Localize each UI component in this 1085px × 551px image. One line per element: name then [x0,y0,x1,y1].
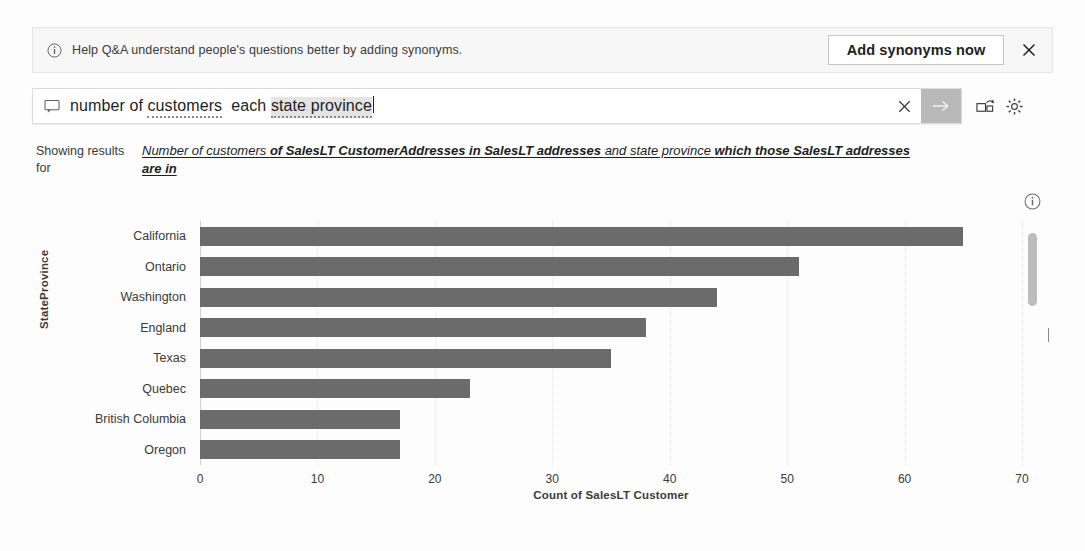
bar-series [200,221,1022,465]
y-axis-tick-label: California [54,221,194,252]
y-axis-category-labels: CaliforniaOntarioWashingtonEnglandTexasQ… [54,221,194,465]
question-input-container[interactable]: number of customers each state province [32,88,962,124]
category-label-text: Washington [120,290,186,304]
y-axis-tick-label: Quebec [54,374,194,405]
notification-message: Help Q&A understand people's questions b… [72,43,462,57]
restatement-part-2: and state province [605,143,715,158]
info-circle-icon [47,43,62,58]
x-axis-tick-label: 70 [1015,472,1028,486]
x-axis-tick-label: 10 [311,472,324,486]
category-label-text: California [133,229,186,243]
bar-row[interactable] [200,374,1022,405]
x-axis-tick-label: 40 [663,472,676,486]
x-axis-ticks: 010203040506070 [200,465,1022,489]
query-token-3: state province [271,97,372,118]
result-visual-container: StateProvince CaliforniaOntarioWashingto… [32,185,1053,531]
category-label-text: Texas [153,351,186,365]
submit-query-button[interactable] [921,89,961,123]
query-restatement[interactable]: Number of customers of SalesLT CustomerA… [142,142,932,178]
question-bar-tools [976,88,1024,124]
x-axis-tick-label: 30 [546,472,559,486]
bar-row[interactable] [200,252,1022,283]
query-token-1: customers [147,97,222,118]
bar-row[interactable] [200,282,1022,313]
showing-results-for: Showing results for Number of customers … [36,142,1036,178]
category-label-text: Quebec [142,382,186,396]
chat-bubble-icon [44,99,61,114]
clear-query-icon[interactable] [896,98,913,115]
x-axis-tick-label: 50 [780,472,793,486]
category-label-text: Ontario [145,260,186,274]
y-axis-tick-label: England [54,313,194,344]
bar[interactable] [200,349,611,368]
y-axis-tick-label: Oregon [54,435,194,466]
restatement-part-1: of SalesLT CustomerAddresses in SalesLT … [270,143,605,158]
bar[interactable] [200,410,400,429]
query-token-0: number of [70,97,147,115]
bar-row[interactable] [200,221,1022,252]
bar-row[interactable] [200,313,1022,344]
bar[interactable] [200,440,400,459]
bar[interactable] [200,379,470,398]
y-axis-tick-label: British Columbia [54,404,194,435]
bar[interactable] [200,257,799,276]
y-axis-title: StateProvince [38,250,50,329]
bar-row[interactable] [200,435,1022,466]
x-axis-tick-label: 0 [197,472,204,486]
y-axis-tick-label: Ontario [54,252,194,283]
x-axis-title: Count of SalesLT Customer [200,489,1022,501]
text-caret [373,96,374,113]
question-bar: number of customers each state province [32,88,1053,124]
gridline [1022,221,1024,465]
category-label-text: British Columbia [95,412,186,426]
bar[interactable] [200,227,963,246]
bar[interactable] [200,288,717,307]
y-axis-tick-label: Washington [54,282,194,313]
add-synonyms-button[interactable]: Add synonyms now [828,35,1004,65]
info-circle-icon[interactable] [1024,193,1041,210]
bar-row[interactable] [200,404,1022,435]
synonym-notification-bar: Help Q&A understand people's questions b… [32,27,1053,73]
close-icon[interactable] [1020,41,1038,59]
x-axis-tick-label: 60 [898,472,911,486]
question-input-text[interactable]: number of customers each state province [70,94,374,118]
showing-results-label: Showing results for [36,142,142,178]
convert-to-visual-icon[interactable] [976,97,995,116]
qna-report-page: Help Q&A understand people's questions b… [0,0,1085,551]
bar[interactable] [200,318,646,337]
plot-area [200,221,1022,465]
gear-icon[interactable] [1005,97,1024,116]
restatement-part-0: Number of customers [142,143,270,158]
category-label-text: England [140,321,186,335]
x-axis-tick-label: 20 [428,472,441,486]
bar-row[interactable] [200,343,1022,374]
query-token-2: each [222,97,271,115]
category-label-text: Oregon [144,443,186,457]
bar-chart: StateProvince CaliforniaOntarioWashingto… [32,221,1053,521]
y-axis-tick-label: Texas [54,343,194,374]
